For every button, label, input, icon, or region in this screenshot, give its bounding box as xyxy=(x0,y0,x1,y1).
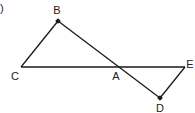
geometry-diagram: ) B C A E D xyxy=(0,0,195,113)
label-E: E xyxy=(186,58,193,70)
label-D: D xyxy=(156,102,164,113)
segment-CB xyxy=(21,21,58,67)
segment-ED xyxy=(160,67,185,98)
label-fragment: ) xyxy=(0,2,4,14)
label-A: A xyxy=(112,70,120,82)
segment-BD xyxy=(58,21,160,98)
label-C: C xyxy=(11,70,19,82)
diagram-svg: ) B C A E D xyxy=(0,0,195,113)
label-B: B xyxy=(53,4,60,16)
